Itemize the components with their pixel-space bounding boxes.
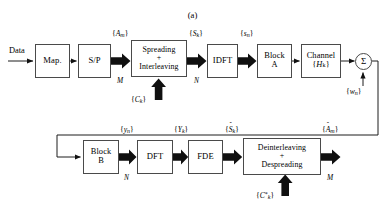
bus-arrow-deinterleaving-out — [321, 150, 341, 165]
block-idft[interactable]: IDFT — [207, 44, 238, 78]
bus-arrow-spreading-to-idft — [187, 54, 207, 69]
data-input-label: Data — [9, 47, 25, 55]
block-b[interactable]: Block B — [83, 140, 119, 174]
hat-mark-sk: ˆ — [229, 121, 233, 128]
block-a-line1: Block — [264, 51, 285, 60]
block-idft-label: IDFT — [212, 56, 234, 65]
signal-label-noise-wn: {wn} — [346, 88, 361, 96]
block-map-label: Map. — [42, 56, 62, 65]
count-label-n-tx: N — [194, 77, 199, 84]
block-dft[interactable]: DFT — [137, 140, 173, 174]
bus-arrow-code-to-spreading — [151, 79, 166, 101]
block-b-line2: B — [98, 156, 104, 165]
bus-arrow-idft-to-blocka — [238, 54, 257, 69]
block-serial-to-parallel[interactable]: S/P — [78, 44, 111, 78]
block-fde-label: FDE — [196, 152, 215, 161]
figure-canvas: (a) Data Map. S/P Spreading + Interleavi… — [0, 0, 385, 210]
bus-arrow-code-conj-to-deinterleaving — [278, 175, 293, 197]
block-map[interactable]: Map. — [35, 44, 70, 78]
signal-label-s-k-hat: {ˆSk} — [225, 126, 239, 134]
bus-arrow-fde-to-deinterleaving — [223, 150, 242, 165]
signal-label-code-ck-conj: {C*k} — [256, 192, 274, 200]
deinterleaving-line3: Despreading — [262, 160, 303, 169]
block-b-line1: Block — [91, 147, 112, 156]
bus-arrow-dft-to-fde — [173, 150, 188, 165]
bus-arrow-sp-to-spreading — [111, 54, 131, 69]
block-channel[interactable]: Channel {Hk} — [301, 44, 341, 78]
block-dft-label: DFT — [146, 152, 165, 161]
block-spreading-interleaving[interactable]: Spreading + Interleaving — [131, 40, 187, 77]
count-label-m-tx: M — [117, 77, 123, 84]
block-channel-response-label: {Hk} — [312, 60, 330, 69]
signal-label-y-n: {yn} — [120, 126, 134, 134]
block-deinterleaving-despreading[interactable]: Deinterleaving + Despreading — [243, 138, 321, 175]
block-channel-line1: Channel — [307, 51, 336, 60]
block-fde[interactable]: FDE — [188, 140, 223, 174]
signal-label-code-ck: {Ck} — [131, 96, 146, 104]
figure-caption: (a) — [0, 10, 385, 20]
spreading-line3: Interleaving — [139, 62, 178, 71]
bus-arrow-blockb-to-dft — [119, 150, 137, 165]
block-a-line2: A — [271, 60, 277, 69]
signal-label-s-k: {Sk} — [189, 30, 203, 38]
block-a[interactable]: Block A — [257, 44, 292, 78]
summing-junction: Σ — [355, 53, 372, 70]
count-label-n-rx: N — [124, 174, 129, 181]
signal-label-s-n: {sn} — [240, 30, 253, 38]
count-label-m-rx: M — [327, 174, 333, 181]
block-sp-label: S/P — [87, 56, 101, 65]
signal-label-Y-k: {Yk} — [174, 126, 188, 134]
hat-mark-am: ˆ — [326, 121, 331, 128]
signal-label-a-m: {Am} — [112, 30, 128, 38]
sigma-symbol: Σ — [361, 56, 366, 66]
signal-label-a-m-hat: {ˆAm} — [322, 126, 338, 134]
